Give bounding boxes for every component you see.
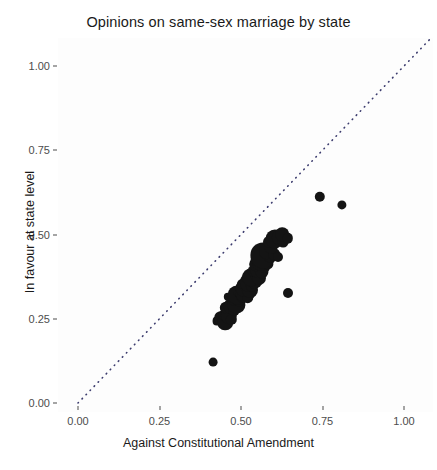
y-tick-label: 0.00 [10, 397, 50, 409]
x-tick-label: 0.50 [211, 415, 271, 427]
plot-panel [58, 38, 433, 412]
y-tick-mark [53, 234, 57, 235]
x-tick-mark [241, 406, 242, 410]
x-tick-label: 0.25 [130, 415, 190, 427]
x-tick-mark [159, 406, 160, 410]
x-tick-label: 0.75 [293, 415, 353, 427]
y-tick-mark [53, 150, 57, 151]
page-title: Opinions on same-sex marriage by state [0, 14, 437, 30]
x-tick-mark [404, 406, 405, 410]
x-tick-label: 0.00 [48, 415, 108, 427]
scatter-plot-figure: Opinions on same-sex marriage by state 0… [0, 0, 437, 470]
y-tick-label: 1.00 [10, 60, 50, 72]
y-tick-mark [53, 318, 57, 319]
y-axis-label: In favour at state level [23, 122, 37, 342]
y-tick-mark [53, 66, 57, 67]
x-tick-mark [322, 406, 323, 410]
y-tick-mark [53, 403, 57, 404]
data-point [273, 252, 283, 262]
data-point [283, 288, 293, 298]
x-axis-label: Against Constitutional Amendment [0, 436, 437, 450]
x-tick-mark [78, 406, 79, 410]
x-tick-label: 1.00 [374, 415, 434, 427]
data-point [209, 357, 218, 366]
